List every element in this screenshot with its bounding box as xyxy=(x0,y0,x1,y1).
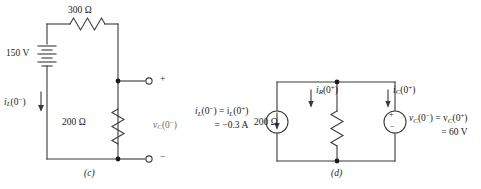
label-capacitor-current-d: iC(0+) xyxy=(393,84,415,97)
label-resistor-200-d: 200 Ω xyxy=(254,117,278,128)
label-vsource-minus-d: − xyxy=(390,122,395,131)
label-resistor-current-d: iR(0+) xyxy=(316,84,338,97)
node-dot xyxy=(335,159,340,164)
label-capacitor-voltage-d: vC(0−) = vC(0+) = 60 V xyxy=(409,112,468,139)
label-capacitor-voltage-value-d: = 60 V xyxy=(409,126,468,139)
voltage-source-symbol xyxy=(384,111,406,133)
label-source-current-value-d: = −0.3 A xyxy=(195,119,248,132)
label-source-current-d: iL(0−) = iL(0+) = −0.3 A xyxy=(195,105,248,132)
caption-panel-d: (d) xyxy=(331,168,342,178)
circuit-figure: 150 V 300 Ω 200 Ω iL(0−) vC(0−) + − (c) xyxy=(0,0,481,189)
label-vsource-plus-d: + xyxy=(389,110,394,119)
